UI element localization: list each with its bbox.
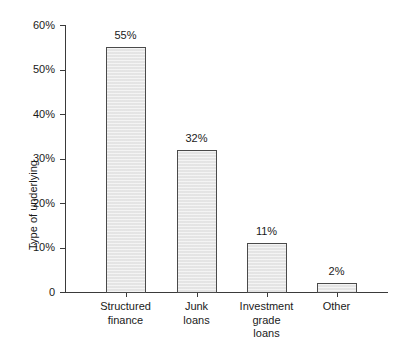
x-tick-mark [337, 293, 338, 297]
y-tick-mark [60, 248, 65, 249]
y-tick-label: 50% [33, 64, 55, 75]
x-tick-mark [126, 293, 127, 297]
plot-area: Type of underlying 010%20%30%40%50%60% 5… [0, 0, 406, 351]
bar-value-label: 55% [86, 30, 166, 41]
y-tick-label: 20% [33, 198, 55, 209]
bar-chart: Type of underlying 010%20%30%40%50%60% 5… [0, 0, 406, 351]
y-tick-mark [60, 292, 65, 293]
y-tick-mark [60, 25, 65, 26]
y-tick-label: 30% [33, 153, 55, 164]
y-tick-mark [60, 114, 65, 115]
y-tick-label: 40% [33, 109, 55, 120]
x-tick-mark [197, 293, 198, 297]
bar-value-label: 2% [297, 266, 377, 277]
y-tick-mark [60, 159, 65, 160]
bar [177, 150, 217, 293]
bar [106, 47, 146, 293]
bar-value-label: 11% [227, 226, 307, 237]
bar-value-label: 32% [157, 133, 237, 144]
x-tick-mark [267, 293, 268, 297]
y-tick-label: 10% [33, 242, 55, 253]
y-tick-mark [60, 203, 65, 204]
y-tick-label: 0 [49, 287, 55, 298]
y-axis-line [65, 25, 66, 293]
x-axis-category-label: Other [287, 300, 387, 314]
bar [247, 243, 287, 293]
bar [317, 283, 357, 293]
y-tick-label: 60% [33, 20, 55, 31]
y-tick-mark [60, 70, 65, 71]
